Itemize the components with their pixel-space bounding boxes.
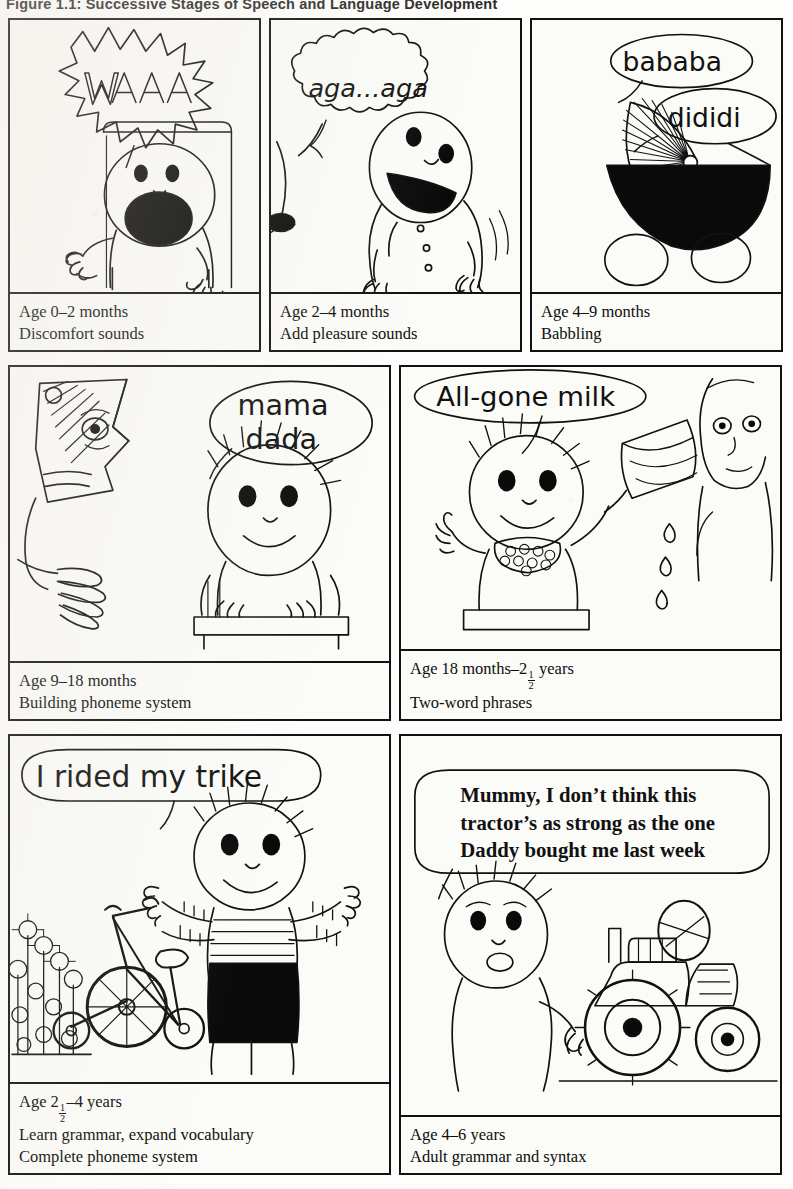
age-prefix: Age 2 [19, 1092, 59, 1111]
bubble-text-dada: dada [246, 422, 318, 456]
panel-2-4-months: aga...aga [269, 18, 522, 352]
panel-4-9-months-age: Age 4–9 months [541, 301, 772, 322]
bubble-text-mummy-line3: Daddy bought me last week [460, 838, 705, 862]
bubble-text-mummy-line2: tractor’s as strong as the one [460, 811, 715, 835]
panel-18-months-2-5-years-caption: Age 18 months–212 years Two-word phrases [401, 649, 780, 719]
panel-2-5-4-years: I rided my trike [8, 734, 391, 1175]
panel-18-months-2-5-years-stage: Two-word phrases [410, 692, 771, 713]
panel-2-5-4-years-age: Age 212–4 years [19, 1091, 380, 1124]
panel-9-18-months-age: Age 9–18 months [19, 670, 380, 691]
panel-row-2: mama dada Age 9–18 months Building phone… [8, 365, 784, 721]
panel-2-4-months-art: aga...aga [271, 20, 520, 292]
panel-18-months-2-5-years-art: All-gone milk [401, 367, 780, 649]
panel-4-9-months-art: bababa dididi [532, 20, 781, 292]
bubble-text-mummy-line1: Mummy, I don’t think this [460, 783, 696, 807]
panel-9-18-months-stage: Building phoneme system [19, 692, 380, 713]
panel-0-2-months-caption: Age 0–2 months Discomfort sounds [10, 292, 259, 350]
age-suffix: –4 years [66, 1092, 121, 1111]
panel-4-9-months: bababa dididi [530, 18, 783, 352]
panel-0-2-months-art [10, 20, 259, 292]
age-suffix: years [535, 659, 574, 678]
panel-2-4-months-stage: Add pleasure sounds [280, 323, 511, 344]
panel-4-6-years-age: Age 4–6 years [410, 1124, 771, 1145]
bubble-text-mama: mama [238, 388, 329, 422]
age-prefix: Age 18 months–2 [410, 659, 527, 678]
figure-title: Figure 1.1: Successive Stages of Speech … [6, 0, 786, 16]
panel-0-2-months-age: Age 0–2 months [19, 301, 250, 322]
bubble-text-aga: aga...aga [308, 73, 428, 103]
panel-2-5-4-years-stage: Learn grammar, expand vocabulary [19, 1124, 380, 1145]
panel-9-18-months-caption: Age 9–18 months Building phoneme system [10, 661, 389, 719]
panel-18-months-2-5-years-age: Age 18 months–212 years [410, 658, 771, 691]
panel-4-6-years-stage: Adult grammar and syntax [410, 1146, 771, 1167]
bubble-text-bababa: bababa [623, 46, 722, 77]
age-fraction: 12 [528, 670, 535, 691]
panel-2-4-months-caption: Age 2–4 months Add pleasure sounds [271, 292, 520, 350]
bubble-text-all-gone-milk: All-gone milk [436, 381, 615, 412]
panel-row-3: I rided my trike [8, 734, 784, 1175]
panel-4-6-years-art: Mummy, I don’t think this tractor’s as s… [401, 736, 780, 1115]
panel-2-5-4-years-stage-2: Complete phoneme system [19, 1146, 380, 1167]
panel-2-5-4-years-caption: Age 212–4 years Learn grammar, expand vo… [10, 1082, 389, 1173]
bubble-text-dididi: dididi [668, 102, 741, 133]
panel-2-5-4-years-art: I rided my trike [10, 736, 389, 1082]
figure-panel-grid: Age 0–2 months Discomfort sounds aga...a… [8, 18, 784, 1175]
panel-4-6-years: Mummy, I don’t think this tractor’s as s… [399, 734, 782, 1175]
panel-0-2-months: Age 0–2 months Discomfort sounds [8, 18, 261, 352]
panel-9-18-months-art: mama dada [10, 367, 389, 661]
panel-4-9-months-stage: Babbling [541, 323, 772, 344]
panel-4-9-months-caption: Age 4–9 months Babbling [532, 292, 781, 350]
panel-row-1: Age 0–2 months Discomfort sounds aga...a… [8, 18, 784, 352]
panel-9-18-months: mama dada Age 9–18 months Building phone… [8, 365, 391, 721]
panel-0-2-months-stage: Discomfort sounds [19, 323, 250, 344]
panel-18-months-2-5-years: All-gone milk [399, 365, 782, 721]
panel-2-4-months-age: Age 2–4 months [280, 301, 511, 322]
panel-4-6-years-caption: Age 4–6 years Adult grammar and syntax [401, 1115, 780, 1173]
